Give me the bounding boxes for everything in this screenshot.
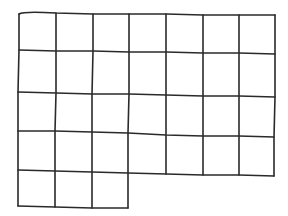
grid-line-v2 xyxy=(55,13,56,207)
grid-line-h2 xyxy=(19,50,275,54)
grid-line-v8 xyxy=(274,15,275,176)
grid-line-v1 xyxy=(18,14,19,206)
grid-line-v4 xyxy=(128,14,129,208)
grid-line-h6 xyxy=(18,206,128,208)
grid-line-h1 xyxy=(19,12,275,15)
grid-line-v3 xyxy=(92,14,93,208)
grid-line-h5 xyxy=(18,170,274,176)
grid-drawing xyxy=(0,0,288,216)
grid-line-h4 xyxy=(18,131,274,137)
grid-svg xyxy=(0,0,288,216)
